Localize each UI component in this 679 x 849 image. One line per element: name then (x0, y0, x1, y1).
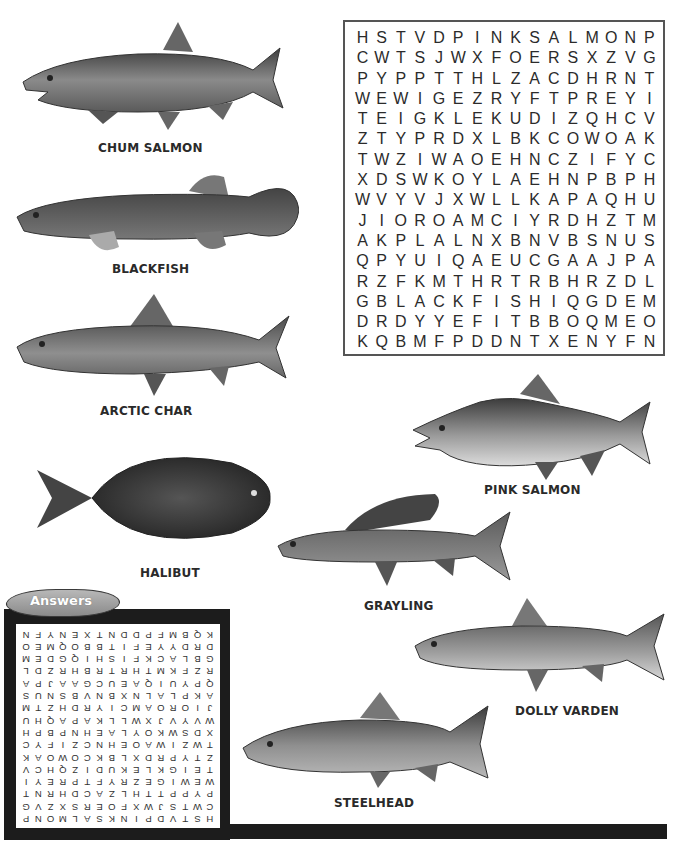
grid-letter: R (583, 272, 602, 292)
grid-letter: U (106, 763, 118, 775)
grid-letter: A (583, 251, 602, 271)
grid-letter: N (106, 628, 118, 640)
grid-letter: N (487, 28, 506, 48)
grid-letter: P (192, 677, 204, 689)
grid-letter: U (506, 109, 525, 129)
dolly-varden-illustration (412, 596, 667, 696)
grid-letter: R (525, 272, 544, 292)
grid-letter: H (583, 69, 602, 89)
grid-letter: G (20, 800, 32, 812)
grid-letter: E (94, 800, 106, 812)
grid-letter: D (130, 628, 142, 640)
grid-letter: X (143, 714, 155, 726)
grid-letter: P (583, 170, 602, 190)
grid-letter: I (57, 739, 69, 751)
grid-letter: E (449, 312, 468, 332)
grid-letter: X (353, 170, 372, 190)
letter-grid: HSTVDPINKSALMONPCWTSJWXFOERSXZVGPYPPTTHL… (353, 28, 659, 353)
grid-letter: R (118, 665, 130, 677)
grid-letter: H (602, 109, 621, 129)
grid-letter: P (167, 788, 179, 800)
grid-letter: U (20, 714, 32, 726)
grid-letter: W (468, 190, 487, 210)
grid-letter: E (130, 763, 142, 775)
grid-letter: S (391, 170, 410, 190)
grid-letter: B (81, 640, 93, 652)
grid-letter: L (167, 689, 179, 701)
grid-letter: A (544, 28, 563, 48)
grid-letter: F (94, 776, 106, 788)
grid-letter: D (45, 653, 57, 665)
grid-letter: Z (372, 272, 391, 292)
grid-letter: J (602, 251, 621, 271)
grid-letter: Y (32, 776, 44, 788)
fish-label: ARCTIC CHAR (100, 404, 193, 418)
grid-letter: H (353, 28, 372, 48)
grid-letter: H (45, 763, 57, 775)
grid-letter: N (32, 788, 44, 800)
grid-letter: Q (69, 653, 81, 665)
grid-letter: R (167, 702, 179, 714)
grid-letter: E (602, 89, 621, 109)
grid-letter: W (155, 739, 167, 751)
grid-letter: N (525, 150, 544, 170)
grid-letter: G (353, 292, 372, 312)
grid-letter: I (487, 292, 506, 312)
grid-letter: O (430, 211, 449, 231)
grid-letter: B (69, 689, 81, 701)
grid-letter: N (525, 231, 544, 251)
answers-panel: HSTVDPINKSALMONPCWTSJWXFOERSXZVGPYPPTTHL… (4, 609, 230, 840)
grid-letter: U (640, 190, 659, 210)
grid-letter: L (487, 170, 506, 190)
grid-letter: S (583, 231, 602, 251)
grid-letter: R (487, 89, 506, 109)
grid-letter: F (602, 150, 621, 170)
grid-letter: X (57, 800, 69, 812)
grid-letter: V (192, 714, 204, 726)
grid-letter: P (621, 251, 640, 271)
fish-label: STEELHEAD (334, 796, 414, 810)
grid-letter: A (94, 788, 106, 800)
grid-letter: N (130, 689, 142, 701)
grid-letter: E (94, 726, 106, 738)
grid-letter: T (506, 272, 525, 292)
grid-letter: S (506, 292, 525, 312)
grid-letter: N (640, 332, 659, 352)
grid-letter: Z (192, 665, 204, 677)
grid-letter: Q (57, 640, 69, 652)
grid-letter: N (621, 28, 640, 48)
grid-letter: L (20, 665, 32, 677)
grid-letter: D (353, 312, 372, 332)
grid-letter: Y (468, 170, 487, 190)
grid-letter: Z (391, 150, 410, 170)
grid-letter: W (143, 800, 155, 812)
grid-letter: T (449, 69, 468, 89)
grid-letter: K (94, 751, 106, 763)
grid-letter: N (94, 739, 106, 751)
grid-letter: N (621, 69, 640, 89)
grid-letter: V (640, 109, 659, 129)
grid-letter: I (544, 292, 563, 312)
grid-letter: H (204, 812, 216, 824)
grid-letter: S (640, 231, 659, 251)
grid-letter: Z (179, 739, 191, 751)
grayling-illustration (275, 490, 515, 590)
grid-letter: T (640, 69, 659, 89)
grid-letter: Y (192, 788, 204, 800)
grid-letter: J (45, 677, 57, 689)
grid-letter: D (179, 640, 191, 652)
grid-letter: I (410, 150, 429, 170)
grid-letter: I (430, 251, 449, 271)
grid-letter: T (372, 129, 391, 149)
grid-letter: N (20, 628, 32, 640)
grid-letter: P (640, 28, 659, 48)
grid-letter: Y (179, 751, 191, 763)
grid-letter: A (449, 211, 468, 231)
grid-letter: J (430, 190, 449, 210)
grid-letter: O (602, 28, 621, 48)
grid-letter: Z (45, 800, 57, 812)
grid-letter: M (167, 628, 179, 640)
grid-letter: C (204, 800, 216, 812)
grid-letter: L (143, 689, 155, 701)
grid-letter: Z (468, 89, 487, 109)
